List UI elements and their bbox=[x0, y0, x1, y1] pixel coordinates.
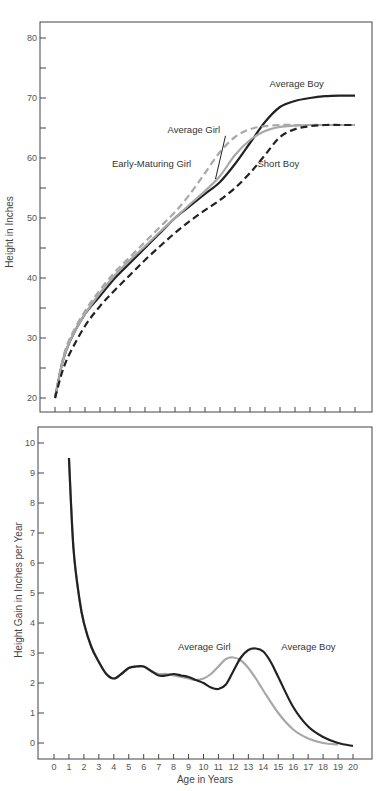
x-tick-label: 2 bbox=[81, 762, 86, 772]
x-tick-label: 14 bbox=[258, 762, 268, 772]
y-tick-label: 5 bbox=[30, 588, 35, 598]
y-tick-label: 20 bbox=[27, 393, 37, 403]
x-tick-label: 18 bbox=[318, 762, 328, 772]
gain-x-ticks: 01234567891011121314151617181920 bbox=[51, 754, 358, 772]
x-tick-label: 6 bbox=[141, 762, 146, 772]
x-tick-label: 5 bbox=[126, 762, 131, 772]
gain-chart: 012345678910 012345678910111213141516171… bbox=[13, 427, 372, 785]
x-tick-label: 3 bbox=[96, 762, 101, 772]
x-tick-label: 16 bbox=[288, 762, 298, 772]
gain-y-ticks: 012345678910 bbox=[25, 438, 44, 748]
gain-y-axis-title: Height Gain in Inches per Year bbox=[13, 522, 24, 658]
annotation-label: Early-Maturing Girl bbox=[112, 158, 191, 169]
height-series bbox=[55, 96, 355, 398]
x-tick-label: 20 bbox=[348, 762, 358, 772]
y-tick-label: 3 bbox=[30, 648, 35, 658]
y-tick-label: 50 bbox=[27, 213, 37, 223]
y-tick-label: 80 bbox=[27, 33, 37, 43]
x-tick-label: 0 bbox=[51, 762, 56, 772]
gain-chart-frame bbox=[38, 427, 372, 759]
y-tick-label: 30 bbox=[27, 333, 37, 343]
height-y-axis-title: Height in Inches bbox=[4, 196, 15, 268]
x-tick-label: 4 bbox=[111, 762, 116, 772]
height-chart: 20304050607080 Height in Inches Average … bbox=[4, 22, 372, 412]
y-tick-label: 7 bbox=[30, 528, 35, 538]
x-tick-label: 19 bbox=[333, 762, 343, 772]
y-tick-label: 60 bbox=[27, 153, 37, 163]
annotation-label: Average Boy bbox=[281, 641, 335, 652]
x-tick-label: 17 bbox=[303, 762, 313, 772]
y-tick-label: 0 bbox=[30, 738, 35, 748]
x-tick-label: 1 bbox=[66, 762, 71, 772]
x-tick-label: 12 bbox=[228, 762, 238, 772]
series-average-boy bbox=[55, 96, 355, 398]
annotation-label: Average Girl bbox=[178, 641, 231, 652]
x-tick-label: 15 bbox=[273, 762, 283, 772]
y-tick-label: 6 bbox=[30, 558, 35, 568]
y-tick-label: 4 bbox=[30, 618, 35, 628]
gain-annotations: Average GirlAverage Boy bbox=[178, 641, 336, 652]
y-tick-label: 2 bbox=[30, 678, 35, 688]
y-tick-label: 40 bbox=[27, 273, 37, 283]
x-tick-label: 7 bbox=[156, 762, 161, 772]
x-tick-label: 8 bbox=[171, 762, 176, 772]
height-x-ticks bbox=[55, 407, 355, 412]
gain-series bbox=[69, 458, 353, 746]
annotation-label: Average Girl bbox=[168, 124, 221, 135]
x-tick-label: 10 bbox=[198, 762, 208, 772]
y-tick-label: 70 bbox=[27, 93, 37, 103]
y-tick-label: 1 bbox=[30, 708, 35, 718]
series-average-boy bbox=[69, 458, 353, 746]
annotation-label: Average Boy bbox=[270, 78, 324, 89]
series-short-boy bbox=[55, 125, 355, 398]
y-tick-label: 9 bbox=[30, 468, 35, 478]
annotation-label: Short Boy bbox=[258, 158, 300, 169]
y-tick-label: 10 bbox=[25, 438, 35, 448]
x-tick-label: 11 bbox=[214, 762, 223, 772]
y-tick-label: 8 bbox=[30, 498, 35, 508]
series-early-maturing-girl bbox=[55, 125, 355, 398]
gain-x-axis-title: Age in Years bbox=[177, 774, 233, 785]
height-y-ticks: 20304050607080 bbox=[27, 33, 46, 403]
x-tick-label: 13 bbox=[243, 762, 253, 772]
series-average-girl bbox=[55, 125, 355, 398]
growth-charts: 20304050607080 Height in Inches Average … bbox=[0, 0, 391, 791]
series-average-girl bbox=[69, 458, 338, 745]
height-annotations: Average BoyAverage GirlEarly-Maturing Gi… bbox=[112, 78, 324, 179]
x-tick-label: 9 bbox=[186, 762, 191, 772]
